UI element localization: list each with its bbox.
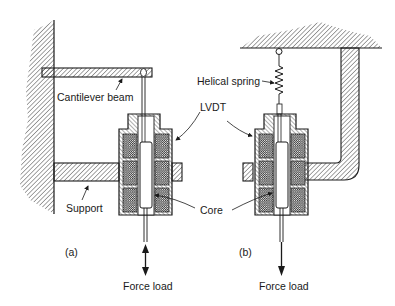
- label-core: Core: [200, 205, 223, 216]
- figure-a: [20, 20, 200, 276]
- label-figure-a: (a): [65, 247, 78, 258]
- label-cantilever-beam: Cantilever beam: [57, 92, 133, 103]
- label-helical-spring: Helical spring: [197, 76, 260, 87]
- figure-b: [227, 22, 382, 276]
- label-force-load-b: Force load: [259, 281, 309, 292]
- force-arrow-down-icon: [278, 242, 285, 276]
- wall-a: [20, 20, 54, 214]
- label-figure-b: (b): [239, 247, 252, 258]
- lvdt-force-transducer-diagram: [0, 0, 395, 306]
- helical-spring-icon: [275, 66, 283, 104]
- cantilever-beam: [42, 68, 152, 77]
- label-lvdt: LVDT: [200, 102, 226, 113]
- spring-mount: [276, 49, 282, 67]
- label-force-load-a: Force load: [123, 281, 173, 292]
- lvdt-body-b: [255, 114, 308, 215]
- lvdt-body-a: [119, 114, 172, 215]
- ceiling-b: [240, 22, 382, 48]
- force-arrow-bidirectional-icon: [142, 244, 149, 276]
- label-support: Support: [66, 203, 103, 214]
